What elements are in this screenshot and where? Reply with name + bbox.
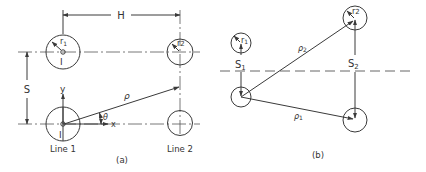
r1-radius-arrow-b [234,36,240,42]
i-upper-label: I [60,57,63,67]
rho-arrow [64,87,179,124]
x-axis-label: x [111,120,116,129]
line2-label: Line 2 [167,144,193,154]
h-label: H [117,10,125,21]
rho1-label: ρ1 [294,112,303,121]
rho2-label: ρ2 [298,44,307,53]
figure-a: H S r1 I r2 I y x ρ θ Line 1 Lin [18,10,200,165]
y-axis-label: y [60,84,66,94]
theta-label: θ [103,113,108,122]
figure-b: r1 S1 r2 S2 ρ2 ρ1 (b) [220,6,412,160]
diagram-canvas: H S r1 I r2 I y x ρ θ Line 1 Lin [0,0,426,172]
line1-label: Line 1 [50,144,76,154]
rho2-arrow [241,21,353,97]
s-label: S [24,84,30,95]
r1-label-b: r1 [241,36,248,45]
caption-b: (b) [312,150,324,160]
r2-label: r2 [177,39,185,48]
r2-label-b: r2 [352,7,360,16]
theta-arc [100,113,102,124]
r1-label: r1 [60,37,67,47]
i-lower-label: I [59,130,62,140]
caption-a: (a) [116,155,128,165]
s2-label: S2 [348,58,359,71]
s1-label: S1 [235,59,246,72]
rho-label: ρ [124,91,130,101]
